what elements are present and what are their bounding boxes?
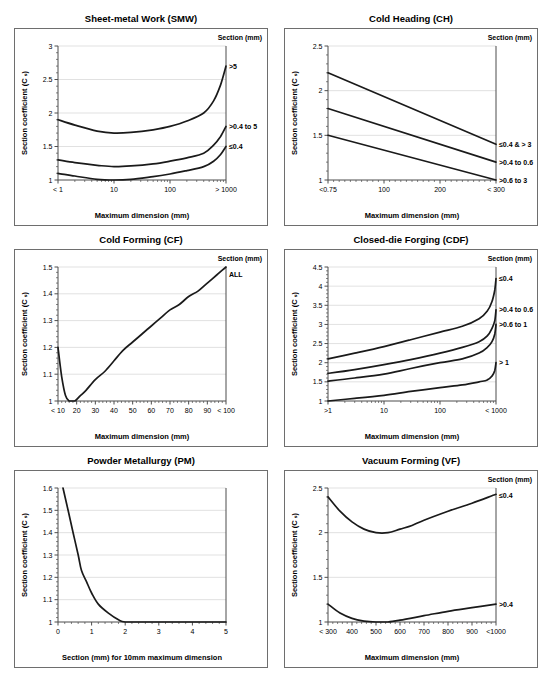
- panel-vacuum-forming: Vacuum Forming (VF) < 300400500600700800…: [284, 454, 538, 668]
- x-tick-label: 600: [394, 628, 406, 635]
- series-label: ≤0.4: [499, 275, 513, 282]
- y-tick-label: 2: [319, 87, 323, 94]
- panel-border: [285, 471, 538, 668]
- x-tick-label: 4: [190, 628, 194, 635]
- series-label: >5: [229, 63, 237, 70]
- x-tick-label: > 1000: [215, 186, 237, 193]
- x-tick-label: 700: [418, 628, 430, 635]
- y-tick-label: 2.5: [43, 76, 53, 83]
- x-tick-label: < 10: [51, 407, 65, 414]
- y-axis-title: Section coefficient (C ₛ): [20, 512, 29, 597]
- y-tick-label: 1: [49, 398, 53, 405]
- y-tick-label: 3.5: [313, 302, 323, 309]
- y-tick-label: 2.5: [313, 340, 323, 347]
- x-tick-label: 2: [123, 628, 127, 635]
- series-label: >0.4 to 5: [229, 123, 257, 130]
- x-tick-label: 60: [147, 407, 155, 414]
- y-tick-label: 1.4: [43, 529, 53, 536]
- y-tick-label: 2.5: [313, 485, 323, 492]
- y-tick-label: 1.2: [43, 574, 53, 581]
- y-axis-title: Section coefficient (C ₛ): [20, 70, 29, 155]
- chart-title-ch: Cold Heading (CH): [284, 12, 538, 26]
- chart-title-smw: Sheet-metal Work (SMW): [14, 12, 268, 26]
- y-tick-label: 1: [319, 619, 323, 626]
- series-label: ALL: [229, 271, 243, 278]
- y-tick-label: 1.4: [43, 290, 53, 297]
- series-label: >0.4: [499, 601, 513, 608]
- chart-ch: <0.75100200< 30011.522.5Maximum dimensio…: [284, 28, 538, 226]
- x-tick-label: < 1000: [485, 407, 507, 414]
- y-tick-label: 1.5: [313, 132, 323, 139]
- x-tick-label: 30: [91, 407, 99, 414]
- x-tick-label: 500: [370, 628, 382, 635]
- chart-smw: < 110100> 100011.522.53Maximum dimension…: [14, 28, 268, 226]
- y-tick-label: 1: [49, 619, 53, 626]
- x-tick-label: 100: [434, 407, 446, 414]
- panel-border: [285, 29, 538, 226]
- chart-title-cf: Cold Forming (CF): [14, 233, 268, 247]
- x-tick-label: < 100: [217, 407, 235, 414]
- x-tick-label: 1: [90, 628, 94, 635]
- x-axis-title: Maximum dimension (mm): [365, 211, 460, 220]
- chart-pm: 01234511.11.21.31.41.51.6Section (mm) fo…: [14, 470, 268, 668]
- x-tick-label: < 1: [53, 186, 63, 193]
- y-tick-label: 4.5: [313, 264, 323, 271]
- x-tick-label: 80: [185, 407, 193, 414]
- x-tick-label: 3: [157, 628, 161, 635]
- x-tick-label: < 300: [319, 628, 337, 635]
- y-tick-label: 1.1: [43, 371, 53, 378]
- x-tick-label: 100: [164, 186, 176, 193]
- chart-title-cdf: Closed-die Forging (CDF): [284, 233, 538, 247]
- chart-cf: < 102030405060708090< 10011.11.21.31.41.…: [14, 249, 268, 447]
- x-tick-label: 100: [378, 186, 390, 193]
- panel-powder-metallurgy: Powder Metallurgy (PM) 01234511.11.21.31…: [14, 454, 268, 668]
- y-tick-label: 1.1: [43, 596, 53, 603]
- y-tick-label: 4: [319, 283, 323, 290]
- x-tick-label: 5: [224, 628, 228, 635]
- chart-title-pm: Powder Metallurgy (PM): [14, 454, 268, 468]
- y-tick-label: 1.6: [43, 485, 53, 492]
- series-label: > 1: [499, 359, 509, 366]
- x-tick-label: 90: [203, 407, 211, 414]
- x-tick-label: 10: [110, 186, 118, 193]
- x-axis-title: Section (mm) for 10mm maximum dimension: [62, 653, 222, 662]
- y-tick-label: 1: [49, 177, 53, 184]
- y-axis-title: Section coefficient (C ₛ): [290, 70, 299, 155]
- x-tick-label: 70: [166, 407, 174, 414]
- legend-title: Section (mm): [218, 255, 262, 263]
- legend-title: Section (mm): [488, 255, 532, 263]
- x-tick-label: <1000: [486, 628, 506, 635]
- chart-title-vf: Vacuum Forming (VF): [284, 454, 538, 468]
- x-axis-title: Maximum dimension (mm): [95, 211, 190, 220]
- series-label: ≤0.4: [229, 143, 243, 150]
- x-tick-label: 20: [73, 407, 81, 414]
- panel-sheet-metal-work: Sheet-metal Work (SMW) < 110100> 100011.…: [14, 12, 268, 226]
- y-tick-label: 1.5: [43, 507, 53, 514]
- y-tick-label: 1: [319, 398, 323, 405]
- series-label: >0.6 to 3: [499, 177, 527, 184]
- chart-cdf: >110100< 100011.522.533.544.5Maximum dim…: [284, 249, 538, 447]
- x-tick-label: 10: [380, 407, 388, 414]
- x-tick-label: 0: [56, 628, 60, 635]
- x-tick-label: 40: [110, 407, 118, 414]
- y-tick-label: 2.5: [313, 43, 323, 50]
- y-tick-label: 1.3: [43, 317, 53, 324]
- x-tick-label: 200: [434, 186, 446, 193]
- x-tick-label: 400: [346, 628, 358, 635]
- legend-title: Section (mm): [218, 34, 262, 42]
- y-tick-label: 1: [319, 177, 323, 184]
- manufacturing-section-coefficient-figure: Sheet-metal Work (SMW) < 110100> 100011.…: [0, 0, 548, 675]
- chart-vf: < 300400500600700800900<100011.522.5Maxi…: [284, 470, 538, 668]
- y-tick-label: 1.5: [43, 264, 53, 271]
- series-label: >0.6 to 1: [499, 321, 527, 328]
- series-label: >0.4 to 0.6: [499, 159, 533, 166]
- x-tick-label: >1: [324, 407, 332, 414]
- y-tick-label: 2: [319, 359, 323, 366]
- y-tick-label: 1.5: [43, 143, 53, 150]
- legend-title: Section (mm): [488, 34, 532, 42]
- series-label: ≤0.4: [499, 492, 513, 499]
- y-tick-label: 1.3: [43, 552, 53, 559]
- series-label: >0.4 to 0.6: [499, 306, 533, 313]
- y-tick-label: 2: [319, 529, 323, 536]
- x-axis-title: Maximum dimension (mm): [365, 432, 460, 441]
